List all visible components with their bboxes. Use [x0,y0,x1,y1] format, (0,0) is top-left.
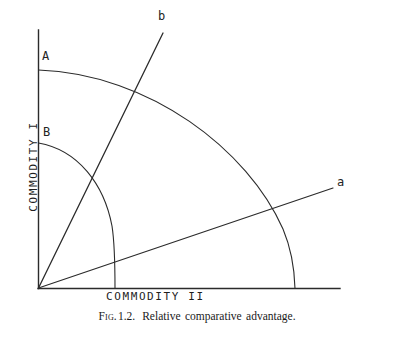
caption-text: Relative comparative advantage. [142,310,295,322]
caption-number: 1.2. [118,310,135,322]
curve-B-path [39,143,116,289]
price-line-a [39,188,334,288]
x-axis-title: COMMODITY II [106,290,205,303]
line-label-b: b [158,10,165,22]
figure-caption: Fig.1.2.Relative comparative advantage. [0,310,394,322]
line-label-a: a [337,176,344,188]
caption-prefix: Fig. [98,310,117,322]
curve-label-A: A [42,50,49,62]
plot-canvas [0,0,394,340]
y-axis-title: COMMODITY I [27,112,40,222]
figure-container: A B a b COMMODITY II COMMODITY I Fig.1.2… [0,0,394,340]
curve-A-path [39,70,296,289]
curve-label-B: B [43,126,50,138]
